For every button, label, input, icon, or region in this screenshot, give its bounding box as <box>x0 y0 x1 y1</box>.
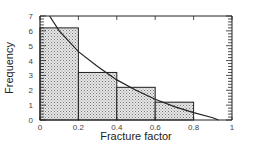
x-tick-label: 0.8 <box>188 123 200 132</box>
y-tick-label: 1 <box>29 101 34 110</box>
y-tick-label: 6 <box>29 27 34 36</box>
histogram-chart: 01234567 00.20.40.60.81 Fracture factor … <box>0 0 263 146</box>
y-axis-label: Frequency <box>3 42 15 94</box>
y-tick-label: 5 <box>29 42 34 51</box>
x-tick-label: 0 <box>38 123 43 132</box>
y-tick-label: 2 <box>29 86 34 95</box>
histogram-bar <box>78 72 116 120</box>
histogram-bars <box>40 28 194 120</box>
histogram-bar <box>40 28 78 120</box>
y-tick-label: 0 <box>29 116 34 125</box>
y-tick-label: 4 <box>29 57 34 66</box>
x-tick-label: 0.2 <box>73 123 85 132</box>
y-tick-label: 3 <box>29 71 34 80</box>
x-tick-label: 1 <box>230 123 235 132</box>
x-axis-label: Fracture factor <box>100 130 172 142</box>
y-tick-label: 7 <box>29 12 34 21</box>
histogram-bar <box>117 87 155 120</box>
